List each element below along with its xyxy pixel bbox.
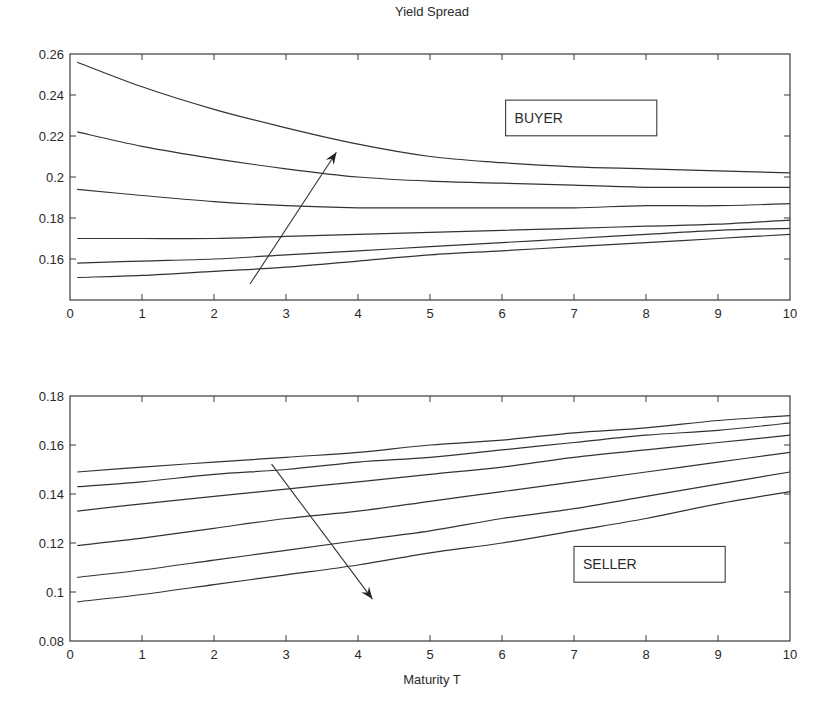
axes-frame — [70, 54, 790, 300]
annotation-label: SELLER — [583, 556, 637, 572]
y-tick-label: 0.18 — [39, 389, 64, 404]
x-tick-label: 6 — [498, 306, 505, 321]
y-tick-label: 0.08 — [39, 634, 64, 649]
figure: Yield Spread 0123456789100.160.180.20.22… — [0, 0, 830, 710]
y-tick-label: 0.16 — [39, 252, 64, 267]
series-curve-3 — [77, 435, 790, 511]
x-tick-label: 5 — [426, 647, 433, 662]
x-tick-label: 4 — [354, 647, 361, 662]
x-tick-label: 1 — [138, 647, 145, 662]
series-curve-4 — [77, 220, 790, 239]
x-tick-label: 0 — [66, 306, 73, 321]
figure-canvas: Yield Spread 0123456789100.160.180.20.22… — [0, 0, 830, 710]
y-tick-label: 0.24 — [39, 88, 64, 103]
x-tick-label: 7 — [570, 647, 577, 662]
series-curve-6 — [77, 234, 790, 277]
series-curve-1 — [77, 62, 790, 173]
x-tick-label: 3 — [282, 306, 289, 321]
x-tick-label: 5 — [426, 306, 433, 321]
y-tick-label: 0.12 — [39, 536, 64, 551]
y-tick-label: 0.26 — [39, 47, 64, 62]
x-tick-label: 2 — [210, 647, 217, 662]
series-curve-1 — [77, 416, 790, 472]
buyer-panel: 0123456789100.160.180.20.220.240.26BUYER — [39, 47, 798, 321]
trend-arrow — [272, 464, 373, 599]
x-tick-label: 2 — [210, 306, 217, 321]
x-tick-label: 9 — [714, 647, 721, 662]
seller-panel: 0123456789100.080.10.120.140.160.18SELLE… — [39, 389, 798, 662]
arrow-head-icon — [326, 152, 337, 165]
x-tick-label: 10 — [783, 306, 797, 321]
x-tick-label: 8 — [642, 647, 649, 662]
series-curve-3 — [77, 189, 790, 208]
series-curve-2 — [77, 132, 790, 188]
x-tick-label: 7 — [570, 306, 577, 321]
x-tick-label: 0 — [66, 647, 73, 662]
x-axis-label: Maturity T — [403, 672, 461, 687]
x-tick-label: 3 — [282, 647, 289, 662]
y-tick-label: 0.22 — [39, 129, 64, 144]
x-tick-label: 8 — [642, 306, 649, 321]
series-curve-2 — [77, 423, 790, 487]
x-tick-label: 6 — [498, 647, 505, 662]
y-tick-label: 0.2 — [46, 170, 64, 185]
chart-title: Yield Spread — [395, 4, 469, 19]
annotation-label: BUYER — [515, 110, 563, 126]
x-tick-label: 1 — [138, 306, 145, 321]
y-tick-label: 0.16 — [39, 438, 64, 453]
series-curve-5 — [77, 228, 790, 263]
y-tick-label: 0.14 — [39, 487, 64, 502]
x-tick-label: 10 — [783, 647, 797, 662]
x-tick-label: 4 — [354, 306, 361, 321]
y-tick-label: 0.1 — [46, 585, 64, 600]
y-tick-label: 0.18 — [39, 211, 64, 226]
x-tick-label: 9 — [714, 306, 721, 321]
arrow-head-icon — [361, 587, 372, 600]
